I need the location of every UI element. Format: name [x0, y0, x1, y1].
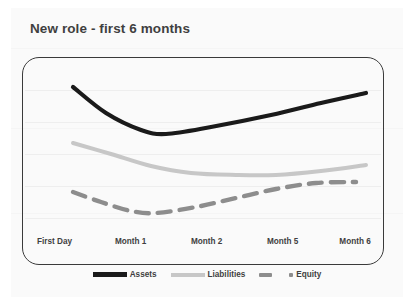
legend-item-equity[interactable]: Equity [259, 270, 321, 279]
legend-swatch-equity-icon [259, 273, 293, 277]
legend-label: Equity [296, 270, 321, 279]
series-line-equity [73, 182, 356, 213]
legend-item-assets[interactable]: Assets [93, 270, 157, 279]
x-axis-tick-label: Month 2 [191, 237, 222, 246]
legend-swatch-liabilities-icon [171, 273, 205, 277]
legend-label: Liabilities [208, 270, 246, 279]
series-line-assets [73, 87, 366, 134]
chart-title: New role - first 6 months [30, 21, 190, 36]
scan-texture-band [11, 48, 403, 49]
legend-swatch-assets-icon [93, 272, 127, 277]
x-axis-tick-label: Month 1 [115, 237, 146, 246]
series-line-liabilities [73, 143, 366, 175]
x-axis-tick-labels: First DayMonth 1Month 2Month 5Month 6 [22, 237, 384, 255]
chart-plot [22, 57, 384, 265]
chart-legend: AssetsLiabilitiesEquity [11, 270, 403, 279]
legend-item-liabilities[interactable]: Liabilities [171, 270, 246, 279]
x-axis-tick-label: Month 5 [267, 237, 298, 246]
slide-card: New role - first 6 months First DayMonth… [11, 8, 403, 297]
x-axis-tick-label: Month 6 [339, 237, 370, 246]
x-axis-tick-label: First Day [37, 237, 72, 246]
legend-label: Assets [130, 270, 157, 279]
